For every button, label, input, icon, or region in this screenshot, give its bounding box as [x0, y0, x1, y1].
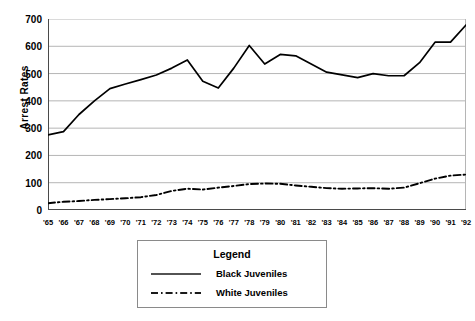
x-tick-label: '83 — [322, 218, 332, 227]
x-tick-label: '70 — [120, 218, 130, 227]
series-line-white-juveniles — [48, 175, 466, 204]
x-tick-label: '65 — [43, 218, 53, 227]
x-tick-label: '68 — [89, 218, 99, 227]
x-tick-label: '73 — [167, 218, 177, 227]
legend-entry: Black Juveniles — [138, 268, 326, 279]
y-tick-label: 200 — [25, 150, 42, 161]
legend-box: Legend Black JuvenilesWhite Juveniles — [137, 240, 327, 308]
y-tick-label: 600 — [25, 41, 42, 52]
legend-line-swatch — [150, 288, 202, 298]
x-tick-label: '91 — [445, 218, 455, 227]
plot-svg — [48, 19, 466, 210]
x-tick-label: '85 — [353, 218, 363, 227]
plot-area: 7006005004003002001000 '65'66'67'68'69'7… — [48, 19, 466, 210]
x-tick-label: '79 — [260, 218, 270, 227]
x-tick-label: '84 — [337, 218, 347, 227]
x-tick-label: '86 — [368, 218, 378, 227]
y-tick-label: 0 — [36, 205, 42, 216]
x-tick-label: '72 — [151, 218, 161, 227]
y-tick-label: 500 — [25, 68, 42, 79]
x-tick-label: '66 — [58, 218, 68, 227]
x-tick-label: '76 — [213, 218, 223, 227]
legend-line-swatch — [150, 269, 202, 279]
x-tick-label: '80 — [275, 218, 285, 227]
x-tick-label: '69 — [105, 218, 115, 227]
y-tick-label: 300 — [25, 123, 42, 134]
x-tick-label: '90 — [430, 218, 440, 227]
arrest-rates-line-chart: Arrest Rates 7006005004003002001000 '65'… — [0, 0, 475, 321]
x-tick-label: '78 — [244, 218, 254, 227]
y-tick-label: 400 — [25, 95, 42, 106]
x-tick-label: '81 — [291, 218, 301, 227]
x-tick-label: '67 — [74, 218, 84, 227]
legend-label: White Juveniles — [216, 287, 288, 298]
x-tick-label: '71 — [136, 218, 146, 227]
series-line-black-juveniles — [48, 25, 466, 135]
x-tick-label: '75 — [198, 218, 208, 227]
x-tick-label: '82 — [306, 218, 316, 227]
x-tick-label: '92 — [461, 218, 471, 227]
x-tick-label: '87 — [384, 218, 394, 227]
x-tick-label: '88 — [399, 218, 409, 227]
x-tick-label: '77 — [229, 218, 239, 227]
y-tick-label: 100 — [25, 177, 42, 188]
x-tick-label: '74 — [182, 218, 192, 227]
legend-title: Legend — [138, 248, 326, 260]
y-tick-label: 700 — [25, 14, 42, 25]
x-tick-label: '89 — [414, 218, 424, 227]
legend-entry: White Juveniles — [138, 287, 326, 298]
legend-entries: Black JuvenilesWhite Juveniles — [138, 268, 326, 298]
legend-label: Black Juveniles — [216, 268, 287, 279]
